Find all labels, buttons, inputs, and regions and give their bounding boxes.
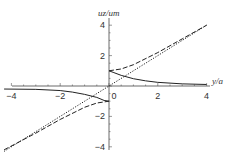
series-solid-line	[109, 71, 207, 85]
y-tick-label: −2	[95, 111, 105, 121]
y-tick-label: 2	[100, 51, 105, 61]
series-dotted-line	[4, 25, 207, 151]
x-tick-label: −2	[55, 91, 65, 101]
series-dashed-line	[109, 25, 207, 71]
x-tick-label: 0	[111, 91, 116, 101]
x-axis-label: y/a	[211, 76, 223, 86]
series-dashed-line	[4, 101, 109, 150]
chart: −4−202442−2−4 uz/um y/a	[0, 0, 235, 160]
y-tick-label: −4	[95, 142, 105, 152]
y-axis-label: uz/um	[98, 8, 120, 18]
x-tick-label: 2	[155, 91, 160, 101]
x-tick-label: −4	[6, 91, 16, 101]
x-tick-label: 4	[204, 91, 209, 101]
y-tick-label: 4	[100, 20, 105, 30]
